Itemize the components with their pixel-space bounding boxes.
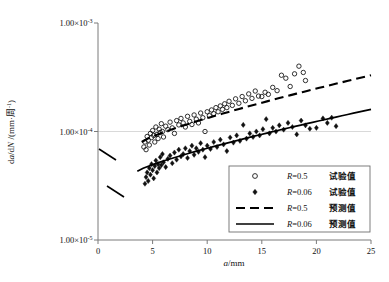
legend-cn-label: 预测值 — [329, 203, 356, 213]
legend-cn-label: 预测值 — [329, 219, 356, 229]
x-tick-label: 0 — [96, 246, 100, 256]
svg-text:da/dN /(mm·周-1): da/dN /(mm·周-1) — [6, 100, 16, 164]
x-axis-title: a/mm — [223, 258, 244, 268]
svg-text:a/mm: a/mm — [223, 258, 244, 268]
fatigue-crack-growth-chart: 0510152025 1.00×10-51.00×10-41.00×10-3 a… — [0, 0, 389, 282]
legend-cn-label: 试验值 — [329, 187, 356, 197]
x-tick-label: 10 — [203, 246, 212, 256]
legend-r-label: R=0.5 — [286, 171, 308, 181]
y-axis-title: da/dN /(mm·周-1) — [6, 100, 16, 164]
figure-container: 0510152025 1.00×10-51.00×10-41.00×10-3 a… — [0, 0, 389, 282]
x-tick-label: 20 — [312, 246, 321, 256]
legend-r-label: R=0.06 — [286, 219, 312, 229]
legend-cn-label: 试验值 — [329, 171, 356, 181]
legend-r-label: R=0.06 — [286, 187, 312, 197]
chart-legend: R=0.5试验值R=0.06试验值R=0.5预测值R=0.06预测值 — [229, 166, 370, 232]
x-tick-label: 15 — [258, 246, 267, 256]
legend-r-label: R=0.5 — [286, 203, 308, 213]
x-tick-label: 25 — [367, 246, 376, 256]
x-tick-label: 5 — [150, 246, 154, 256]
